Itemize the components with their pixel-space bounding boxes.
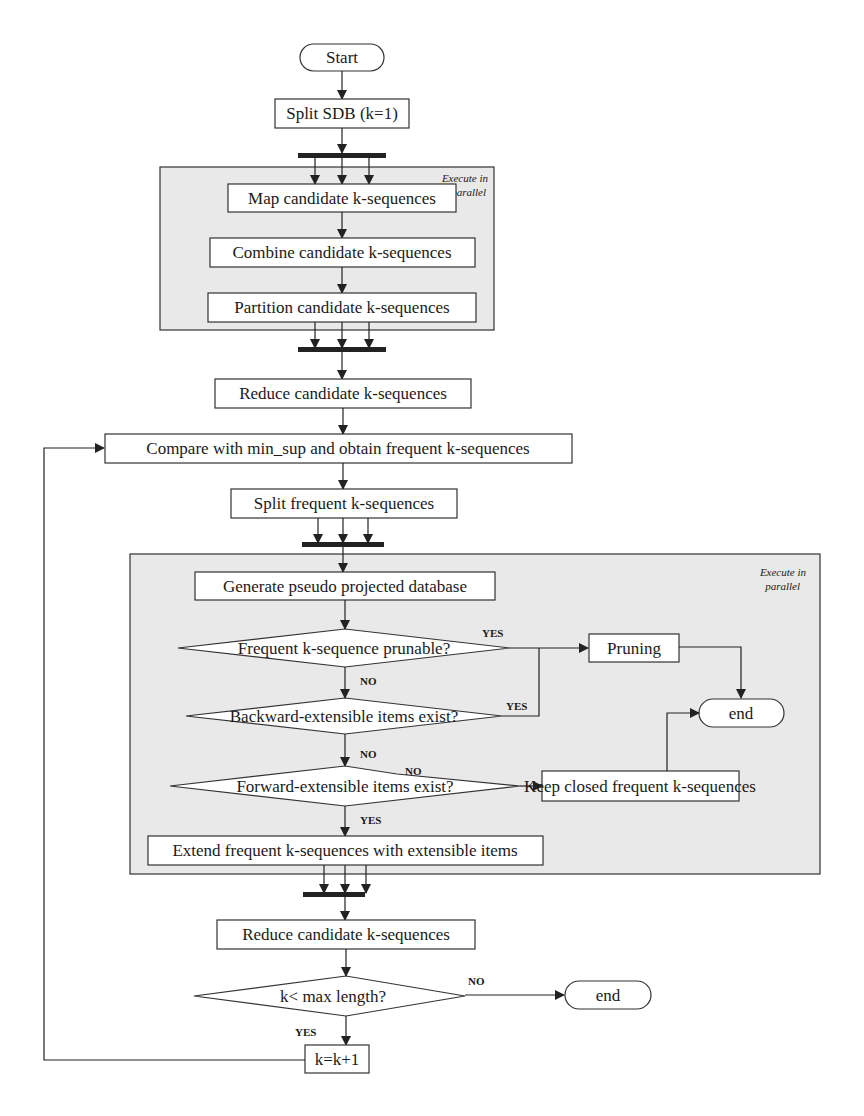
max-length-label: k< max length? — [280, 987, 386, 1006]
fork-bar-2 — [302, 542, 384, 547]
start-label: Start — [326, 48, 358, 67]
keep-closed-label: Keep closed frequent k-sequences — [524, 777, 756, 796]
join-bar-2 — [303, 892, 365, 897]
forward-yes-label: YES — [360, 814, 381, 826]
pruning-label: Pruning — [607, 639, 661, 658]
split-sdb-label: Split SDB (k=1) — [286, 104, 398, 123]
generate-label: Generate pseudo projected database — [223, 577, 467, 596]
reduce-label-1: Reduce candidate k-sequences — [239, 384, 447, 403]
fork-bar-1 — [298, 153, 386, 158]
forward-label: Forward-extensible items exist? — [236, 777, 453, 796]
split-frequent-label: Split frequent k-sequences — [254, 494, 434, 513]
prunable-no-label: NO — [360, 675, 377, 687]
combine-label: Combine candidate k-sequences — [232, 243, 451, 262]
region-2-note-line2: parallel — [764, 580, 800, 592]
extend-label: Extend frequent k-sequences with extensi… — [172, 841, 517, 860]
backward-yes-label: YES — [506, 700, 527, 712]
backward-no-label: NO — [360, 748, 377, 760]
prunable-label: Frequent k-sequence prunable? — [238, 639, 450, 658]
region-1-note-line1: Execute in — [441, 172, 489, 184]
partition-label: Partition candidate k-sequences — [234, 298, 449, 317]
increment-label: k=k+1 — [315, 1050, 360, 1069]
backward-label: Backward-extensible items exist? — [230, 707, 458, 726]
flowchart: Execute in parallel Execute in parallel … — [0, 0, 864, 1116]
compare-label: Compare with min_sup and obtain frequent… — [146, 439, 529, 458]
reduce-label-2: Reduce candidate k-sequences — [242, 925, 450, 944]
max-no-label: NO — [468, 975, 485, 987]
end-inner-label: end — [729, 704, 754, 723]
end-outer-label: end — [596, 986, 621, 1005]
prunable-yes-label: YES — [482, 627, 503, 639]
join-bar-1 — [298, 347, 386, 352]
max-yes-label: YES — [295, 1026, 316, 1038]
map-label: Map candidate k-sequences — [248, 189, 436, 208]
forward-no-label: NO — [405, 765, 422, 777]
region-2-note-line1: Execute in — [759, 566, 807, 578]
